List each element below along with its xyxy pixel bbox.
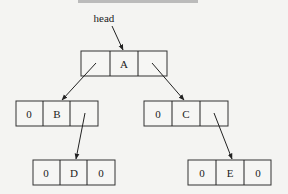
node-c: 0 C bbox=[144, 101, 228, 126]
node-a-data: A bbox=[120, 58, 128, 70]
head-arrow bbox=[112, 26, 123, 50]
node-e-data: E bbox=[227, 167, 234, 179]
node-c-data: C bbox=[182, 108, 189, 120]
node-d-left: 0 bbox=[43, 167, 49, 179]
node-e: 0 E 0 bbox=[188, 160, 271, 185]
node-d: 0 D 0 bbox=[33, 160, 115, 185]
edge-a-to-c bbox=[152, 63, 184, 100]
edge-a-to-b bbox=[62, 63, 96, 100]
node-b-data: B bbox=[53, 108, 60, 120]
node-b: 0 B bbox=[16, 101, 98, 126]
cut-off-caption bbox=[78, 0, 198, 3]
node-d-right: 0 bbox=[98, 167, 104, 179]
node-a: A bbox=[81, 51, 167, 76]
node-b-left: 0 bbox=[26, 108, 32, 120]
node-d-data: D bbox=[70, 167, 78, 179]
head-label: head bbox=[94, 12, 115, 24]
tree-diagram: head A 0 B 0 C 0 D 0 0 E 0 bbox=[0, 0, 288, 194]
node-c-left: 0 bbox=[155, 108, 161, 120]
node-e-right: 0 bbox=[255, 167, 261, 179]
node-e-left: 0 bbox=[199, 167, 205, 179]
